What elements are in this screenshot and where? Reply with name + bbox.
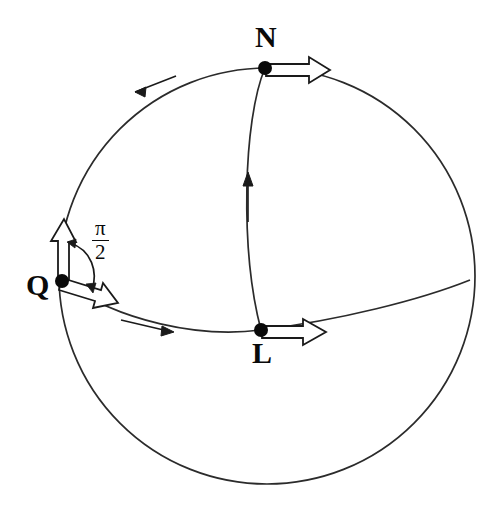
vertex-dot-n xyxy=(258,61,272,75)
meridian-arc-n-l xyxy=(247,68,265,330)
equator-direction-arrow xyxy=(121,320,174,336)
meridian-direction-arrow xyxy=(243,172,253,222)
vertex-label-q: Q xyxy=(26,270,49,300)
equator-arc-q-l xyxy=(62,280,470,332)
spherical-geometry-diagram: N L Q π 2 xyxy=(0,0,489,511)
arc-direction-arrow-top xyxy=(135,76,176,97)
angle-numerator: π xyxy=(92,218,109,241)
vertex-label-n: N xyxy=(255,22,277,52)
tangent-vector-at-q-north xyxy=(51,219,76,280)
vertex-dot-q xyxy=(55,274,69,288)
tangent-vector-at-n xyxy=(266,57,330,83)
sphere-outline-circle xyxy=(59,68,475,484)
angle-denominator: 2 xyxy=(92,241,109,263)
vertex-dot-l xyxy=(254,323,268,337)
angle-label-pi-over-two: π 2 xyxy=(92,218,109,264)
vertex-label-l: L xyxy=(252,338,272,368)
diagram-canvas xyxy=(0,0,489,511)
